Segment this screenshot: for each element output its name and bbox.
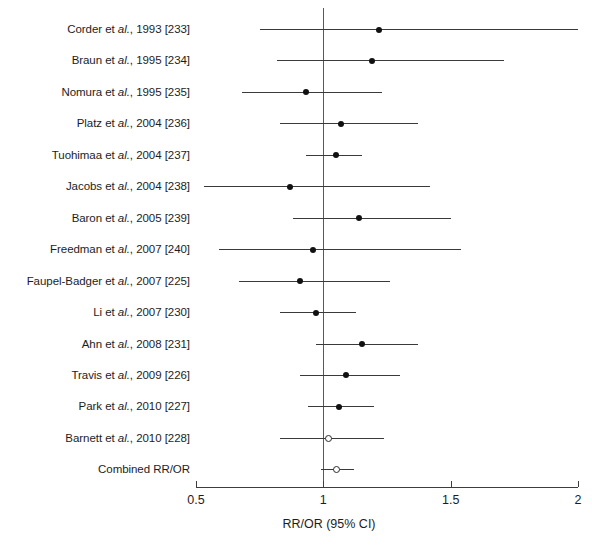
x-axis-tick-label: 1.5: [442, 493, 459, 507]
point-estimate-marker: [313, 310, 319, 316]
x-axis-line: [196, 487, 578, 488]
confidence-interval-line: [280, 123, 418, 124]
confidence-interval-line: [277, 60, 504, 61]
x-axis-tick: [451, 481, 452, 487]
point-estimate-marker: [376, 27, 382, 33]
confidence-interval-line: [280, 438, 384, 439]
x-axis-title: RR/OR (95% CI): [282, 517, 375, 531]
confidence-interval-line: [260, 29, 578, 30]
point-estimate-marker: [333, 152, 339, 158]
point-estimate-marker-open: [333, 466, 340, 473]
x-axis-tick: [578, 481, 579, 487]
point-estimate-marker: [359, 341, 365, 347]
point-estimate-marker: [310, 247, 316, 253]
x-axis-tick-label: 2: [575, 493, 582, 507]
point-estimate-marker: [356, 215, 362, 221]
point-estimate-marker: [303, 89, 309, 95]
confidence-interval-line: [293, 218, 451, 219]
point-estimate-marker: [343, 372, 349, 378]
plot-area: [0, 0, 592, 551]
x-axis-tick-label: 1: [320, 493, 327, 507]
reference-line-null-effect: [323, 8, 324, 487]
x-axis-tick-label: 0.5: [187, 493, 204, 507]
confidence-interval-line: [239, 281, 389, 282]
point-estimate-marker-open: [325, 435, 332, 442]
confidence-interval-line: [242, 92, 382, 93]
x-axis-tick: [323, 481, 324, 487]
point-estimate-marker: [287, 184, 293, 190]
x-axis-tick: [196, 481, 197, 487]
point-estimate-marker: [297, 278, 303, 284]
point-estimate-marker: [336, 404, 342, 410]
confidence-interval-line: [300, 375, 399, 376]
forest-plot: Corder et al., 1993 [233]Braun et al., 1…: [0, 0, 592, 551]
confidence-interval-line: [219, 249, 461, 250]
confidence-interval-line: [316, 344, 418, 345]
confidence-interval-line: [204, 186, 431, 187]
point-estimate-marker: [338, 121, 344, 127]
point-estimate-marker: [369, 58, 375, 64]
